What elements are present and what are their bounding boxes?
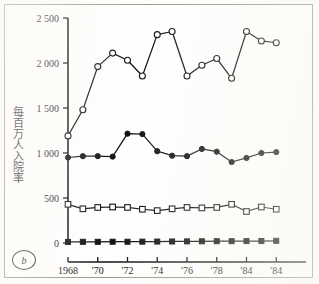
- x-tick-label: '72: [122, 265, 134, 276]
- x-tick-label: '84: [270, 265, 282, 276]
- data-point-marker: [139, 73, 145, 79]
- x-tick-label: 1968: [58, 265, 78, 276]
- data-point-marker: [214, 149, 219, 154]
- y-tick-label: 500: [44, 193, 59, 204]
- data-point-marker: [110, 154, 115, 159]
- y-axis-title: 每百万人入院率: [8, 96, 26, 192]
- series-open-square: [65, 202, 279, 215]
- data-point-marker: [66, 239, 71, 244]
- data-point-marker: [258, 38, 264, 44]
- data-point-marker: [244, 209, 250, 215]
- x-tick-label: '78: [211, 265, 223, 276]
- panel-label: b: [12, 250, 36, 270]
- y-axis-ticks: 05001 0001 5002 0002 500: [37, 13, 69, 249]
- x-tick-label: '84: [241, 265, 253, 276]
- data-point-marker: [80, 154, 85, 159]
- series-line: [68, 32, 276, 136]
- series-open-circle: [65, 29, 279, 139]
- data-point-marker: [169, 206, 175, 212]
- data-point-marker: [125, 131, 130, 136]
- data-point-marker: [199, 146, 204, 151]
- data-point-marker: [229, 202, 235, 208]
- y-tick-label: 1 500: [37, 103, 60, 114]
- data-point-marker: [65, 133, 71, 139]
- data-point-marker: [170, 153, 175, 158]
- data-point-marker: [274, 150, 279, 155]
- data-point-marker: [244, 239, 249, 244]
- chart-series: [65, 29, 279, 245]
- data-point-marker: [244, 29, 250, 35]
- data-point-marker: [229, 75, 235, 81]
- data-point-marker: [155, 149, 160, 154]
- data-point-marker: [169, 29, 175, 35]
- data-point-marker: [140, 206, 146, 212]
- y-tick-label: 2 500: [37, 13, 60, 24]
- data-point-marker: [214, 239, 219, 244]
- data-point-marker: [259, 204, 265, 210]
- data-point-marker: [110, 239, 115, 244]
- data-point-marker: [110, 50, 116, 56]
- y-tick-label: 2 000: [37, 58, 60, 69]
- chart-axes: [68, 18, 306, 262]
- data-point-marker: [80, 206, 86, 212]
- data-point-marker: [229, 239, 234, 244]
- figure-panel-b: 05001 0001 5002 0002 500 1968'70'72'74'7…: [0, 0, 319, 284]
- data-point-marker: [95, 64, 101, 70]
- data-point-marker: [95, 239, 100, 244]
- data-point-marker: [155, 239, 160, 244]
- x-axis-ticks: 1968'70'72'74'76'78'84'84: [58, 257, 282, 276]
- data-point-marker: [229, 159, 234, 164]
- data-point-marker: [259, 239, 264, 244]
- data-point-marker: [140, 132, 145, 137]
- data-point-marker: [154, 32, 160, 38]
- data-point-marker: [214, 56, 220, 62]
- data-point-marker: [274, 238, 279, 243]
- data-point-marker: [184, 205, 190, 211]
- data-point-marker: [199, 205, 205, 211]
- data-point-marker: [110, 204, 116, 210]
- y-tick-label: 1 000: [37, 148, 60, 159]
- data-point-marker: [95, 205, 101, 211]
- data-point-marker: [95, 154, 100, 159]
- series-filled-circle: [65, 131, 278, 165]
- data-point-marker: [125, 57, 131, 63]
- data-point-marker: [125, 205, 131, 211]
- data-point-marker: [65, 155, 70, 160]
- data-point-marker: [80, 107, 86, 113]
- chart-plot: 05001 0001 5002 0002 500 1968'70'72'74'7…: [0, 0, 319, 284]
- data-point-marker: [184, 154, 189, 159]
- data-point-marker: [273, 40, 279, 46]
- data-point-marker: [214, 205, 220, 211]
- data-point-marker: [140, 239, 145, 244]
- data-point-marker: [170, 239, 175, 244]
- data-point-marker: [154, 208, 160, 214]
- x-tick-label: '76: [181, 265, 193, 276]
- y-tick-label: 0: [54, 238, 59, 249]
- data-point-marker: [65, 202, 71, 208]
- data-point-marker: [185, 239, 190, 244]
- series-filled-square: [66, 238, 279, 244]
- data-point-marker: [259, 150, 264, 155]
- data-point-marker: [273, 206, 279, 212]
- x-tick-label: '70: [92, 265, 104, 276]
- data-point-marker: [199, 62, 205, 68]
- x-tick-label: '74: [151, 265, 163, 276]
- data-point-marker: [125, 239, 130, 244]
- data-point-marker: [244, 155, 249, 160]
- data-point-marker: [184, 73, 190, 79]
- data-point-marker: [199, 239, 204, 244]
- data-point-marker: [80, 239, 85, 244]
